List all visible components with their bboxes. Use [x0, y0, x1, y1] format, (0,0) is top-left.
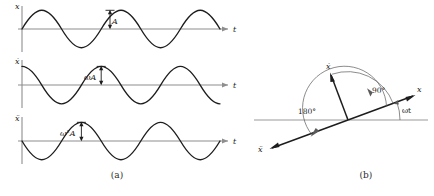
phasor-svg: ẍ x ẋ ωt 90° — [250, 0, 434, 170]
velocity-t-axis-label: t — [233, 81, 237, 90]
plot-velocity: ẋ t ωA — [15, 57, 237, 108]
ninety-degree-label: 90° — [372, 86, 386, 95]
velocity-amplitude-label: ωA — [84, 73, 97, 82]
velocity-amplitude-marker — [97, 66, 106, 85]
panel-a-waveforms: x t A ẋ t — [0, 0, 250, 196]
velocity-y-axis-label: ẋ — [15, 57, 20, 66]
figure-container: x t A ẋ t — [0, 0, 434, 196]
acceleration-phasor-arrowhead — [270, 143, 280, 149]
acceleration-t-axis-label: t — [233, 137, 237, 146]
acceleration-phasor-vector — [270, 120, 349, 149]
one-eighty-degree-label: 180° — [298, 107, 316, 116]
acceleration-phasor-label: ẍ — [258, 145, 263, 154]
caption-b: (b) — [346, 170, 386, 180]
one-eighty-degree-arc — [303, 66, 387, 136]
plot-displacement: x t A — [15, 2, 237, 52]
panel-b-phasor: ẍ x ẋ ωt 90° — [250, 0, 434, 196]
displacement-phasor-label: x — [417, 85, 422, 94]
acceleration-amplitude-marker — [77, 122, 86, 141]
displacement-y-axis-label: x — [15, 2, 20, 11]
velocity-phasor-vector — [330, 73, 348, 120]
waveforms-svg: x t A ẋ t — [0, 0, 250, 170]
displacement-amplitude-label: A — [111, 17, 118, 26]
caption-a: (a) — [97, 170, 137, 180]
omega-t-label: ωt — [402, 106, 411, 115]
displacement-phasor-arrowhead — [406, 95, 416, 101]
acceleration-t-axis-arrowhead — [222, 139, 228, 144]
displacement-t-axis-arrowhead — [222, 27, 228, 32]
plot-acceleration: ẍ t ω²A — [15, 114, 237, 164]
acceleration-y-axis-label: ẍ — [15, 114, 20, 123]
omega-t-arc — [394, 100, 400, 120]
displacement-t-axis-label: t — [233, 25, 237, 34]
velocity-t-axis-arrowhead — [222, 83, 228, 88]
acceleration-amplitude-label: ω²A — [60, 129, 76, 138]
